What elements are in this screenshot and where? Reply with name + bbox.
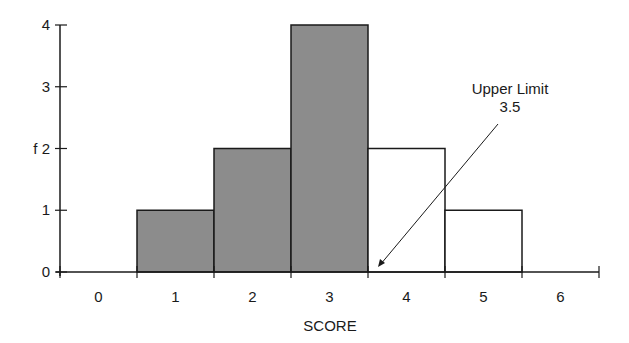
histogram-bar: [137, 210, 214, 272]
y-tick-label: 4: [42, 16, 50, 33]
annotation-line1: Upper Limit: [472, 80, 550, 97]
y-tick-label: 3: [42, 78, 50, 95]
histogram-bar: [445, 210, 522, 272]
x-tick-label: 2: [248, 288, 256, 305]
y-ticks: 01f 234: [33, 16, 67, 280]
x-axis-label: SCORE: [303, 317, 356, 334]
y-tick-label: 1: [42, 201, 50, 218]
x-tick-label: 5: [479, 288, 487, 305]
bars-group: [137, 25, 522, 272]
x-tick-label: 6: [556, 288, 564, 305]
x-tick-label: 1: [171, 288, 179, 305]
x-tick-label: 3: [325, 288, 333, 305]
histogram-bar: [368, 149, 445, 273]
x-tick-label: 4: [402, 288, 410, 305]
y-tick-label: f 2: [33, 140, 50, 157]
x-tick-label: 0: [94, 288, 102, 305]
y-tick-label: 0: [42, 263, 50, 280]
histogram-chart: 01f 234 0123456 SCORE Upper Limit 3.5: [0, 0, 629, 343]
histogram-bar: [214, 149, 291, 273]
histogram-bar: [291, 25, 368, 272]
annotation-line2: 3.5: [500, 98, 521, 115]
